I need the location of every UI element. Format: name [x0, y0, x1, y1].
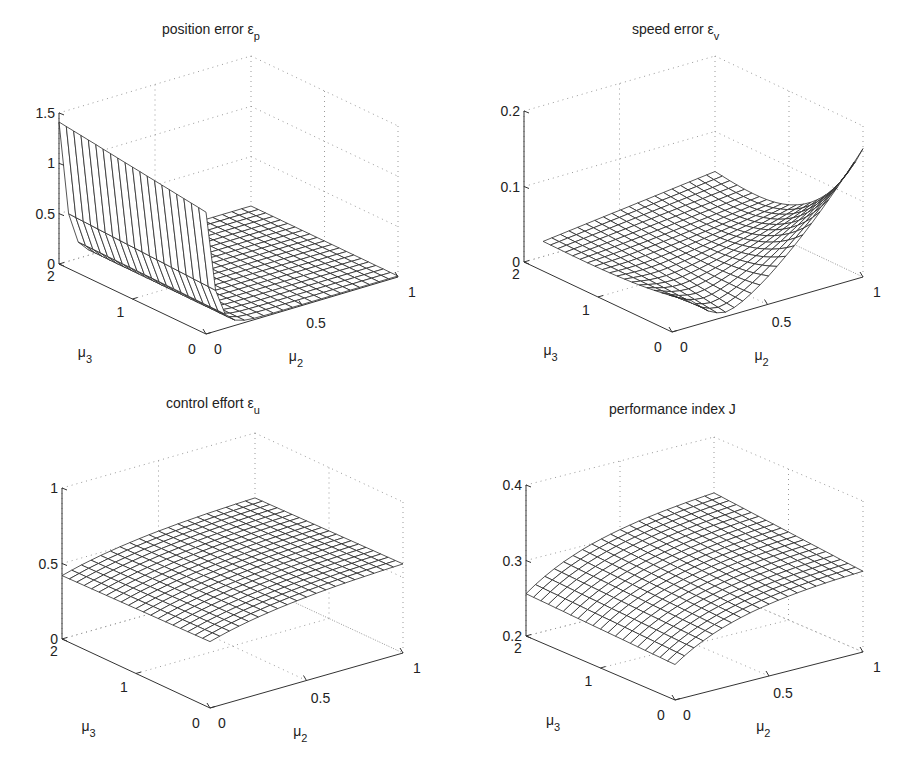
mu2-tick-label: 0.5: [772, 314, 792, 330]
panel-title: control effort εu: [166, 395, 260, 416]
surface-mesh: [526, 493, 863, 665]
mu3-tick-label: 0: [654, 339, 662, 355]
mu2-tick-label: 1: [408, 284, 416, 300]
mu3-tick-label: 2: [50, 643, 58, 659]
mu2-tick-label: 0.5: [311, 690, 331, 706]
mu2-axis-label: μ2: [289, 348, 303, 369]
mu3-axis-label: μ3: [78, 344, 92, 365]
mu2-tick-label: 1: [873, 659, 881, 675]
z-tick-label: 0.2: [501, 103, 521, 119]
mu3-axis-label: μ3: [546, 712, 560, 733]
mu2-tick-label: 1: [873, 284, 881, 300]
mu2-tick-label: 0: [680, 339, 688, 355]
surface-mesh: [59, 122, 398, 320]
mu3-tick-label: 0: [192, 715, 200, 731]
z-tick-label: 0.5: [39, 556, 59, 572]
mu3-tick-label: 1: [585, 673, 593, 689]
mu2-tick-label: 0.5: [306, 315, 326, 331]
z-tick-label: 1.5: [36, 105, 56, 121]
mu3-tick-label: 1: [120, 679, 128, 695]
z-tick-label: 1: [47, 155, 55, 171]
panel-position-error: position error εp 00.511.501200.51μ3μ2: [36, 21, 417, 369]
z-tick-label: 0.3: [503, 553, 523, 569]
panel-title: position error εp: [162, 21, 260, 42]
mu3-axis-label: μ3: [543, 342, 557, 363]
mu2-axis-label: μ2: [756, 718, 770, 739]
mu3-axis-label: μ3: [81, 718, 95, 739]
panel-title: speed error εv: [632, 21, 720, 42]
z-tick-label: 0.4: [503, 477, 523, 493]
mu2-tick-label: 1: [413, 660, 421, 676]
surface-mesh: [543, 149, 863, 313]
mu2-tick-label: 0: [214, 341, 222, 357]
z-tick-label: 1: [50, 480, 58, 496]
mu2-tick-label: 0: [683, 707, 691, 723]
figure: position error εp 00.511.501200.51μ3μ2 s…: [0, 0, 900, 767]
mu3-tick-label: 2: [47, 268, 55, 284]
mu3-tick-label: 0: [657, 707, 665, 723]
mu2-tick-label: 0: [218, 715, 226, 731]
surface-mesh: [62, 498, 403, 642]
z-tick-label: 0.1: [501, 179, 521, 195]
panel-performance-index: performance index J 0.20.30.401200.51μ3μ…: [503, 401, 882, 739]
mu2-axis-label: μ2: [754, 347, 768, 368]
panel-control-effort: control effort εu 00.5101200.51μ3μ2: [39, 395, 422, 744]
mu2-axis-label: μ2: [293, 723, 307, 744]
mu2-tick-label: 0.5: [773, 685, 793, 701]
panel-title: performance index J: [609, 401, 736, 417]
mu3-tick-label: 0: [188, 341, 196, 357]
mu3-tick-label: 1: [117, 304, 125, 320]
mu3-tick-label: 1: [582, 302, 590, 318]
mu3-tick-label: 2: [514, 640, 522, 656]
panel-speed-error: speed error εv 00.10.201200.51μ3μ2: [501, 21, 882, 368]
mu3-tick-label: 2: [512, 266, 520, 282]
z-tick-label: 0.5: [36, 206, 56, 222]
